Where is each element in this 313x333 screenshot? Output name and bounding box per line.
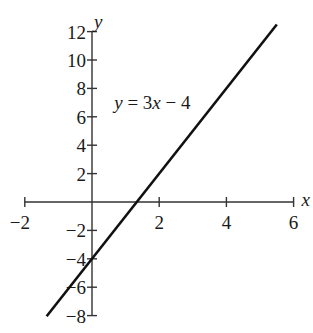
x-tick-label: 2 xyxy=(154,212,164,233)
x-tick-label: 4 xyxy=(222,212,232,233)
y-tick-label: 6 xyxy=(77,107,87,128)
y-tick-label: 2 xyxy=(77,164,87,185)
equation-const: − 4 xyxy=(161,92,191,113)
x-tick-label: −2 xyxy=(10,212,30,233)
tick-labels: −2246−8−6−4−224681012 xyxy=(10,22,299,327)
y-tick-label: 8 xyxy=(77,78,87,99)
line-chart: −2246−8−6−4−224681012 x y y = 3x − 4 xyxy=(0,0,313,333)
y-tick-label: −8 xyxy=(66,306,86,327)
equation-eq: = 3 xyxy=(123,92,153,113)
y-tick-label: 12 xyxy=(67,22,86,43)
y-tick-label: −2 xyxy=(66,220,86,241)
equation-annotation: y = 3x − 4 xyxy=(112,92,191,113)
x-tick-label: 6 xyxy=(289,212,299,233)
y-axis-label: y xyxy=(92,11,103,32)
x-axis-label: x xyxy=(301,189,311,210)
equation-y: y xyxy=(112,92,123,113)
y-tick-label: 10 xyxy=(67,50,86,71)
y-tick-label: −4 xyxy=(66,249,87,270)
y-tick-label: 4 xyxy=(77,135,87,156)
